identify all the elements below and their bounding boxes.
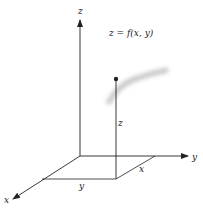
height-label: z bbox=[117, 118, 123, 128]
equation-label: z = f(x, y) bbox=[108, 28, 154, 38]
diagram-canvas: z z = f(x, y) z y x y x bbox=[0, 0, 203, 211]
surface-point bbox=[114, 77, 118, 81]
base-right-edge bbox=[116, 156, 155, 179]
base-y-label: y bbox=[78, 181, 85, 191]
x-axis-label: x bbox=[4, 195, 9, 205]
base-x-label: x bbox=[139, 164, 144, 174]
surface-shadow bbox=[108, 70, 168, 104]
y-axis-label: y bbox=[191, 152, 198, 162]
z-axis-label: z bbox=[77, 6, 83, 16]
x-axis bbox=[13, 156, 80, 199]
